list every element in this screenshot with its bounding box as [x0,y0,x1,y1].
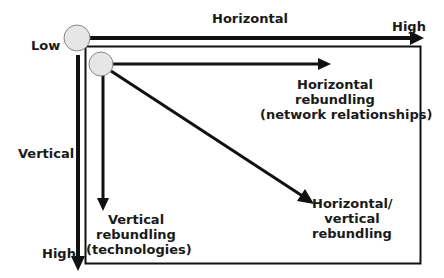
high-y-label: High [42,246,76,261]
vertical-rebundling-arrowhead-icon [97,198,109,211]
vertical-rebundling-line1: Vertical [86,212,186,227]
horizontal-rebundling-label: Horizontal rebundling (network relations… [260,77,410,122]
vertical-axis-title: Vertical [18,146,74,161]
horizontal-axis-title: Horizontal [212,11,288,26]
horizontal-rebundling-line2: rebundling [260,92,410,107]
vertical-rebundling-line2: rebundling [86,227,186,242]
diagonal-rebundling-line1: Horizontal/ [312,196,392,211]
inner-origin-circle-icon [89,52,113,76]
vertical-rebundling-line3: (technologies) [86,242,186,257]
low-label: Low [31,38,60,53]
high-x-label: High [392,19,426,34]
outer-origin-circle-icon [64,25,90,51]
diagonal-rebundling-line2: vertical [312,211,392,226]
diagonal-rebundling-line3: rebundling [312,226,392,241]
horizontal-rebundling-line1: Horizontal [260,77,410,92]
horizontal-rebundling-line3: (network relationships) [260,107,410,122]
vertical-rebundling-label: Vertical rebundling (technologies) [86,212,186,257]
horizontal-rebundling-arrowhead-icon [318,58,331,70]
diagonal-rebundling-label: Horizontal/ vertical rebundling [312,196,392,241]
